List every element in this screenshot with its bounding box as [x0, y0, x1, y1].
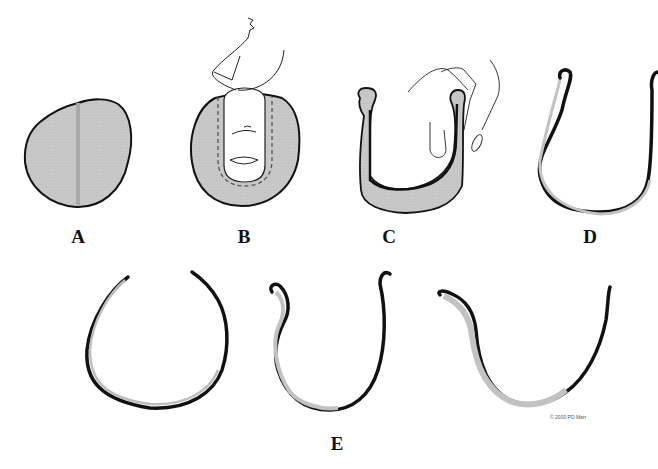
copyright-credit: © 2000 PD Marr [550, 414, 586, 420]
figure: A B C D E © 2000 PD Marr [0, 0, 658, 469]
panel-d-u-strip [539, 70, 658, 214]
label-c: C [382, 226, 396, 248]
illustration [0, 0, 658, 469]
panel-b-finger-disc [191, 18, 299, 206]
panel-e-variant-3 [439, 287, 610, 404]
panel-e-variant-1 [87, 272, 227, 408]
label-b: B [238, 226, 251, 248]
panel-a-disc [25, 99, 131, 207]
panel-c-bent-cartilage [358, 60, 499, 213]
label-a: A [71, 226, 85, 248]
panel-e-variant-2 [271, 273, 390, 410]
label-e: E [331, 433, 344, 455]
label-d: D [583, 226, 597, 248]
